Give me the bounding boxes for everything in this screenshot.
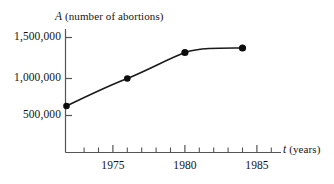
- y-axis-variable: A: [55, 10, 62, 22]
- data-point-1980: [181, 49, 188, 56]
- x-axis-title: t (years): [283, 144, 320, 156]
- y-tick-label-1000000: 1,000,000: [2, 72, 61, 84]
- x-axis-variable: t: [283, 143, 286, 155]
- y-tick-label-500000: 500,000: [2, 109, 61, 121]
- y-axis-title: A (number of abortions): [55, 11, 164, 23]
- y-axis-units: (number of abortions): [65, 10, 164, 22]
- chart-figure: A (number of abortions) t (years) 1,500,…: [0, 0, 334, 184]
- chart-plot-area: [0, 0, 334, 184]
- data-point-1976: [124, 75, 131, 82]
- y-tick-label-1500000: 1,500,000: [2, 31, 61, 43]
- data-point-markers: [63, 44, 246, 109]
- data-point-1984: [239, 44, 246, 51]
- x-axis-major-ticks: [113, 145, 257, 153]
- x-axis-units: (years): [289, 143, 320, 155]
- x-tick-label-1980: 1980: [160, 160, 210, 172]
- data-curve: [67, 48, 243, 106]
- x-tick-label-1985: 1985: [232, 160, 282, 172]
- x-axis-minor-ticks: [84, 148, 271, 153]
- x-tick-label-1975: 1975: [88, 160, 138, 172]
- data-point-1972: [63, 103, 70, 110]
